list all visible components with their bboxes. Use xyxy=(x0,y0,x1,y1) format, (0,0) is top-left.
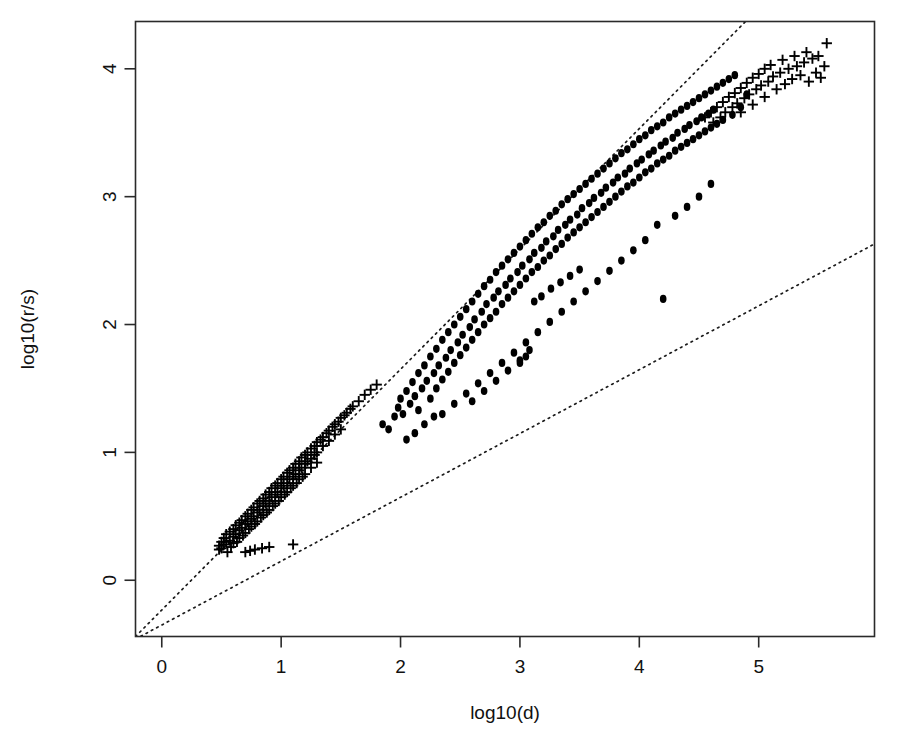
data-point-circle xyxy=(684,102,691,110)
data-point-circle xyxy=(447,346,454,354)
data-point-circle xyxy=(478,308,485,316)
data-point-circle xyxy=(457,313,464,321)
data-point-circle xyxy=(455,338,462,346)
data-point-circle xyxy=(451,320,458,328)
data-point-plus xyxy=(777,55,787,65)
data-point-circle xyxy=(526,346,533,354)
data-point-circle xyxy=(660,118,667,126)
data-point-circle xyxy=(493,308,500,316)
data-point-circle xyxy=(666,113,673,121)
data-point-plus xyxy=(264,542,274,552)
data-point-plus xyxy=(348,401,358,411)
data-point-circle xyxy=(439,375,446,383)
data-point-circle xyxy=(519,262,526,270)
x-axis-ticks xyxy=(162,637,759,648)
data-point-circle xyxy=(684,203,691,211)
data-point-circle xyxy=(541,218,548,226)
data-point-circle xyxy=(395,404,402,412)
data-point-plus xyxy=(759,92,769,102)
data-point-circle xyxy=(654,221,661,229)
data-point-circle xyxy=(546,251,553,259)
x-axis-title: log10(d) xyxy=(470,702,540,723)
data-point-circle xyxy=(445,328,452,336)
data-point-plus xyxy=(811,67,821,77)
x-tick-label: 5 xyxy=(753,656,764,677)
data-point-circle xyxy=(517,242,524,250)
data-point-circle xyxy=(720,79,727,87)
data-point-circle xyxy=(463,389,470,397)
data-point-circle xyxy=(630,179,637,187)
y-tick-label: 0 xyxy=(99,575,120,586)
data-point-circle xyxy=(654,159,661,167)
data-point-circle xyxy=(475,379,482,387)
data-point-plus xyxy=(371,379,381,389)
y-axis-title: log10(r/s) xyxy=(17,289,38,369)
data-point-circle xyxy=(558,200,565,208)
data-point-circle xyxy=(588,175,595,183)
data-point-circle xyxy=(570,190,577,198)
data-point-plus xyxy=(748,99,758,109)
data-point-circle xyxy=(379,420,386,428)
data-point-circle xyxy=(648,126,655,134)
data-point-plus xyxy=(816,73,826,83)
data-point-circle xyxy=(514,268,521,276)
data-point-circle xyxy=(505,294,512,302)
data-point-circle xyxy=(531,249,538,257)
data-point-circle xyxy=(674,129,681,137)
data-point-plus xyxy=(736,107,746,117)
data-point-circle xyxy=(574,210,581,218)
data-point-circle xyxy=(487,314,494,322)
data-point-circle xyxy=(642,131,649,139)
data-point-circle xyxy=(594,277,601,285)
data-point-plus xyxy=(288,539,298,549)
data-point-circle xyxy=(567,272,574,280)
data-point-circle xyxy=(570,228,577,236)
x-tick-label: 3 xyxy=(515,656,526,677)
data-point-circle xyxy=(535,328,542,336)
data-point-circle xyxy=(463,305,470,313)
data-point-circle xyxy=(481,282,488,290)
data-point-circle xyxy=(535,223,542,231)
data-point-circle xyxy=(600,164,607,172)
data-point-plus xyxy=(720,107,730,117)
data-point-circle xyxy=(618,256,625,264)
data-point-circle xyxy=(564,195,571,203)
data-point-circle xyxy=(714,83,721,91)
data-point-circle xyxy=(612,154,619,162)
data-point-circle xyxy=(517,281,524,289)
data-point-circle xyxy=(424,377,431,385)
data-point-circle xyxy=(481,387,488,395)
data-point-circle xyxy=(469,336,476,344)
y-tick-label: 2 xyxy=(99,319,120,330)
data-point-circle xyxy=(543,237,550,245)
data-point-circle xyxy=(400,410,407,418)
data-point-circle xyxy=(696,94,703,102)
data-point-circle xyxy=(662,138,669,146)
data-point-circle xyxy=(487,369,494,377)
data-point-circle xyxy=(526,255,533,263)
data-point-circle xyxy=(606,267,613,275)
data-point-circle xyxy=(672,109,679,117)
data-point-circle xyxy=(708,86,715,94)
data-point-circle xyxy=(499,300,506,308)
y-tick-label: 3 xyxy=(99,191,120,202)
data-point-circle xyxy=(419,384,426,392)
x-tick-label: 0 xyxy=(156,656,167,677)
data-point-circle xyxy=(493,377,500,385)
data-point-circle xyxy=(487,276,494,284)
data-point-circle xyxy=(517,359,524,367)
data-point-circle xyxy=(403,435,410,443)
x-tick-label: 1 xyxy=(276,656,287,677)
data-point-circle xyxy=(702,90,709,98)
data-point-circle xyxy=(660,155,667,163)
data-point-circle xyxy=(541,256,548,264)
data-point-circle xyxy=(618,149,625,157)
data-point-circle xyxy=(550,232,557,240)
data-points-plus-markers xyxy=(214,38,832,557)
data-point-circle xyxy=(427,352,434,360)
data-point-circle xyxy=(502,281,509,289)
y-tick-label: 4 xyxy=(99,63,120,74)
data-point-circle xyxy=(435,361,442,369)
data-point-circle xyxy=(451,400,458,408)
data-point-circle xyxy=(548,285,555,293)
